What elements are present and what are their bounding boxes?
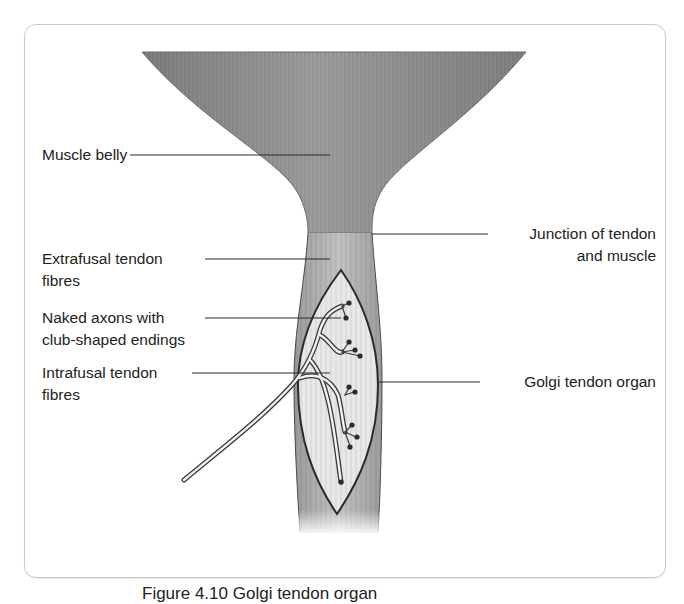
figure-caption: Figure 4.10 Golgi tendon organ xyxy=(142,584,377,604)
label-naked-axons-line1: Naked axons with xyxy=(42,307,185,329)
label-extrafusal-line2: fibres xyxy=(42,270,163,292)
label-junction-tendon-muscle: Junction of tendon and muscle xyxy=(529,223,656,267)
label-extrafusal-tendon-fibres: Extrafusal tendon fibres xyxy=(42,248,163,292)
label-golgi-tendon-organ: Golgi tendon organ xyxy=(524,371,656,393)
label-naked-axons-line2: club-shaped endings xyxy=(42,329,185,351)
label-naked-axons: Naked axons with club-shaped endings xyxy=(42,307,185,351)
label-junction-line2: and muscle xyxy=(529,245,656,267)
label-intrafusal-line1: Intrafusal tendon xyxy=(42,362,157,384)
label-golgi-text: Golgi tendon organ xyxy=(524,373,656,390)
label-muscle-belly: Muscle belly xyxy=(42,144,127,166)
label-intrafusal-line2: fibres xyxy=(42,384,157,406)
muscle-belly-shape xyxy=(142,52,526,233)
label-extrafusal-line1: Extrafusal tendon xyxy=(42,248,163,270)
label-muscle-belly-text: Muscle belly xyxy=(42,146,127,163)
label-intrafusal-tendon-fibres: Intrafusal tendon fibres xyxy=(42,362,157,406)
label-junction-line1: Junction of tendon xyxy=(529,223,656,245)
